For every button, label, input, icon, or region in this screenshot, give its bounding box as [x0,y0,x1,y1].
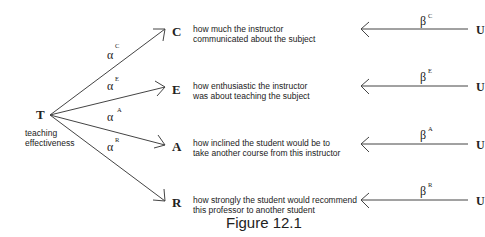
beta-c-sup: C [428,12,432,19]
alpha-c-sup: C [115,42,119,49]
description-c-line2: communicated about the subject [193,34,315,44]
node-a: A [172,139,181,155]
beta-e-label: β [420,70,426,85]
node-t-description: teaching effectiveness [25,128,74,148]
beta-c-label: β [420,14,426,29]
node-t-description-line2: effectiveness [25,138,74,148]
alpha-r-sup: R [115,136,119,143]
description-e-line1: how enthusiastic the instructor [193,81,310,91]
description-c: how much the instructor communicated abo… [193,24,315,44]
description-a: how inclined the student would be to tak… [193,138,340,158]
description-c-line1: how much the instructor [193,24,315,34]
description-r: how strongly the student would recommend… [193,195,357,215]
error-u-c: U [476,23,485,38]
description-r-line1: how strongly the student would recommend [193,195,357,205]
description-a-line2: take another course from this instructor [193,148,340,158]
error-u-a: U [476,138,485,153]
alpha-c-label: α [107,48,113,63]
node-e: E [172,82,181,98]
node-t-description-line1: teaching [25,128,74,138]
figure-caption: Figure 12.1 [226,214,302,231]
beta-e-sup: E [428,67,432,74]
description-e: how enthusiastic the instructor was abou… [193,81,310,101]
beta-a-label: β [420,128,426,143]
beta-r-sup: R [428,181,432,188]
description-e-line2: was about teaching the subject [193,91,310,101]
alpha-e-label: α [107,79,113,94]
node-c: C [172,24,181,40]
beta-a-sup: A [428,125,433,132]
error-u-r: U [476,194,485,209]
beta-r-label: β [420,184,426,199]
node-r: R [172,195,181,211]
description-a-line1: how inclined the student would be to [193,138,340,148]
arrowhead-a-icon [154,135,165,148]
alpha-e-sup: E [115,75,119,82]
arrow-t-to-c [50,29,165,115]
node-t: T [36,107,45,123]
alpha-a-sup: A [117,106,122,113]
alpha-r-label: α [107,140,113,155]
alpha-a-label: α [107,110,113,125]
error-u-e: U [476,80,485,95]
